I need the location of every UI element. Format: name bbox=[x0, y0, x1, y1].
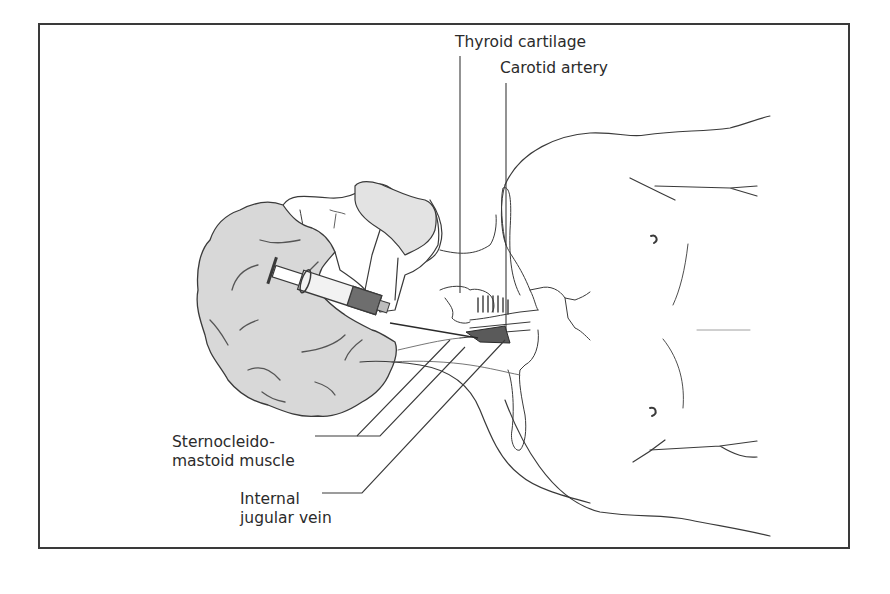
clavicle-sternum bbox=[460, 185, 590, 450]
neck-line bbox=[440, 215, 496, 253]
label-carotid-artery: Carotid artery bbox=[500, 59, 608, 78]
thyroid-cartilage-shape bbox=[440, 286, 530, 328]
needle bbox=[390, 323, 478, 338]
label-internal-jugular-line2: jugular vein bbox=[240, 509, 332, 528]
label-sternocleidomastoid-line1: Sternocleido- bbox=[172, 433, 295, 452]
label-internal-jugular-line1: Internal bbox=[240, 490, 332, 509]
shoulder-line bbox=[360, 361, 590, 503]
internal-jugular-vein-shape bbox=[466, 326, 510, 343]
label-internal-jugular-vein: Internal jugular vein bbox=[240, 490, 332, 528]
torso-outline bbox=[505, 116, 770, 536]
nipple-lower-icon bbox=[650, 408, 656, 416]
anatomy-illustration bbox=[0, 0, 890, 594]
label-sternocleidomastoid-line2: mastoid muscle bbox=[172, 452, 295, 471]
nipple-upper-icon bbox=[651, 236, 657, 243]
label-sternocleidomastoid: Sternocleido- mastoid muscle bbox=[172, 433, 295, 471]
label-thyroid-cartilage: Thyroid cartilage bbox=[455, 33, 586, 52]
